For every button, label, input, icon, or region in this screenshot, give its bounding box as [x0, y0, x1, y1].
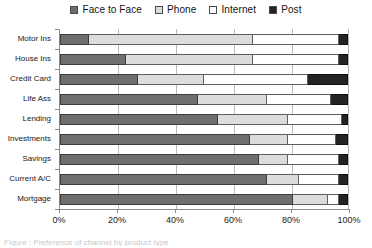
legend-item-label: Phone — [167, 5, 196, 15]
y-axis-label: Savings — [0, 155, 51, 163]
x-axis-tick — [291, 209, 292, 213]
bar-segment — [328, 194, 340, 205]
bar-row — [60, 174, 348, 185]
bar-row — [60, 34, 348, 45]
x-axis-tick-label: 20% — [108, 216, 126, 225]
bar-segment — [288, 134, 337, 145]
y-axis-labels: Motor InsHouse InsCredit CardLife AssLen… — [0, 29, 55, 209]
x-axis-tick — [117, 209, 118, 213]
bar-segment — [342, 114, 348, 125]
legend-swatch-icon — [269, 6, 277, 14]
bar-segment — [339, 154, 348, 165]
bar-segment — [89, 34, 253, 45]
bar-segment — [308, 74, 348, 85]
bar-segment — [198, 94, 267, 105]
bar-row — [60, 134, 348, 145]
bar-segment — [218, 114, 287, 125]
bar-segment — [331, 94, 348, 105]
bar-segment — [267, 94, 330, 105]
bar-segment — [339, 34, 348, 45]
chart-legend: Face to FacePhoneInternetPost — [0, 5, 372, 15]
y-axis-label: Life Ass — [0, 95, 51, 103]
bar-segment — [267, 174, 299, 185]
bar-segment — [204, 74, 308, 85]
bar-segment — [60, 54, 126, 65]
bar-segment — [60, 194, 293, 205]
x-axis-tick — [175, 209, 176, 213]
bar-row — [60, 194, 348, 205]
bar-segment — [288, 114, 343, 125]
bar-segment — [60, 94, 198, 105]
bar-row — [60, 154, 348, 165]
x-axis-tick-label: 40% — [166, 216, 184, 225]
legend-item: Face to Face — [70, 5, 142, 15]
x-axis-tick-label: 60% — [224, 216, 242, 225]
bar-segment — [60, 134, 250, 145]
bar-row — [60, 114, 348, 125]
legend-item-label: Face to Face — [82, 5, 142, 15]
bar-segment — [259, 154, 288, 165]
figure-caption: Figure : Preference of channel by produc… — [4, 238, 304, 246]
stacked-bar-chart: Face to FacePhoneInternetPost Motor InsH… — [0, 0, 372, 248]
x-axis-tick — [233, 209, 234, 213]
bar-segment — [126, 54, 253, 65]
bar-rows — [60, 29, 348, 209]
bar-row — [60, 54, 348, 65]
bar-segment — [288, 154, 340, 165]
bar-segment — [293, 194, 328, 205]
x-axis-line — [59, 209, 350, 210]
x-axis-tick-label: 0% — [52, 216, 65, 225]
bar-segment — [60, 154, 259, 165]
y-axis-label: Investments — [0, 135, 51, 143]
bar-segment — [339, 194, 348, 205]
bar-segment — [60, 74, 138, 85]
legend-swatch-icon — [209, 6, 217, 14]
legend-swatch-icon — [155, 6, 163, 14]
legend-item: Post — [269, 5, 301, 15]
legend-item: Phone — [155, 5, 196, 15]
y-axis-label: House Ins — [0, 55, 51, 63]
bar-segment — [336, 134, 348, 145]
y-axis-label: Credit Card — [0, 75, 51, 83]
legend-swatch-icon — [70, 6, 78, 14]
bar-segment — [60, 114, 218, 125]
x-axis-tick — [349, 209, 350, 213]
legend-item-label: Post — [281, 5, 301, 15]
plot-area — [59, 29, 349, 209]
bar-row — [60, 94, 348, 105]
x-axis-tick — [59, 209, 60, 213]
bar-segment — [339, 174, 348, 185]
y-axis-label: Mortgage — [0, 195, 51, 203]
x-axis-tick-label: 80% — [282, 216, 300, 225]
bar-segment — [253, 34, 339, 45]
bar-row — [60, 74, 348, 85]
y-axis-label: Motor Ins — [0, 35, 51, 43]
bar-segment — [60, 174, 267, 185]
bar-segment — [60, 34, 89, 45]
legend-item: Internet — [209, 5, 256, 15]
y-axis-label: Lending — [0, 115, 51, 123]
legend-item-label: Internet — [221, 5, 256, 15]
bar-segment — [250, 134, 287, 145]
bar-segment — [339, 54, 348, 65]
bar-segment — [253, 54, 339, 65]
y-axis-label: Current A/C — [0, 175, 51, 183]
bar-segment — [299, 174, 339, 185]
x-axis-tick-label: 100% — [337, 216, 360, 225]
bar-segment — [138, 74, 204, 85]
